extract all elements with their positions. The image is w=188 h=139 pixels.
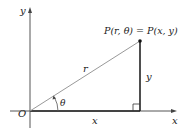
point-p <box>138 39 142 43</box>
y-axis-label: y <box>19 5 26 16</box>
y-axis-arrow-icon <box>28 7 32 13</box>
polar-coordinates-diagram: y x O r y x θ P(r, θ) = P(x, y) <box>0 0 188 139</box>
radius-label: r <box>83 63 89 74</box>
radius-line <box>30 41 140 111</box>
angle-label: θ <box>60 98 66 108</box>
horizontal-leg-label: x <box>92 115 98 126</box>
x-axis-label: x <box>172 115 178 126</box>
right-angle-marker-icon <box>133 104 140 111</box>
origin-label: O <box>18 108 26 119</box>
vertical-leg-label: y <box>145 71 152 82</box>
angle-arc <box>55 98 59 112</box>
point-label: P(r, θ) = P(x, y) <box>103 25 178 36</box>
x-axis-arrow-icon <box>171 109 177 113</box>
diagram-svg: y x O r y x θ P(r, θ) = P(x, y) <box>0 0 188 139</box>
